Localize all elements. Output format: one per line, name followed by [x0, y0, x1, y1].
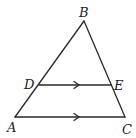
label-a: A [6, 120, 16, 135]
label-d: D [23, 77, 35, 92]
label-c: C [122, 122, 132, 137]
segment-bc [84, 21, 125, 117]
triangle-diagram: B D E A C [0, 0, 136, 138]
segment-ab [15, 21, 84, 117]
label-b: B [78, 5, 89, 20]
label-e: E [113, 78, 124, 93]
